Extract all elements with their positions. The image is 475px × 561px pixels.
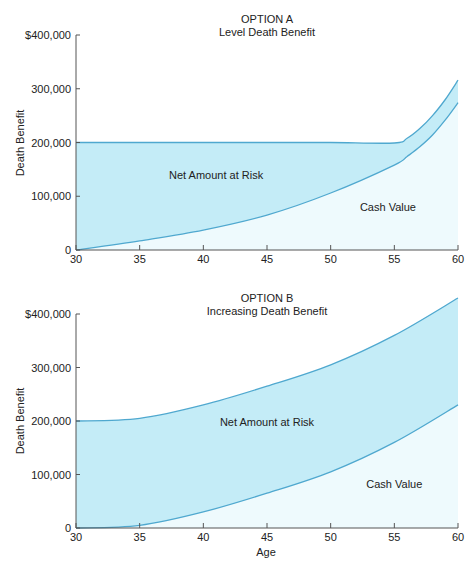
chart-subtitle: Increasing Death Benefit xyxy=(207,305,327,317)
x-tick-label: 55 xyxy=(388,531,400,543)
y-tick-label: 200,000 xyxy=(31,137,71,149)
cash-value-label: Cash Value xyxy=(360,201,416,213)
y-tick-label: 100,000 xyxy=(31,469,71,481)
y-tick-label: 300,000 xyxy=(31,362,71,374)
x-tick-label: 45 xyxy=(261,253,273,265)
x-tick-label: 45 xyxy=(261,531,273,543)
chart-canvas: 0100,000200,000300,000$400,0003035404550… xyxy=(0,0,475,561)
x-axis-label: Age xyxy=(256,546,276,558)
chart-option-a: 0100,000200,000300,000$400,0003035404550… xyxy=(14,13,464,265)
y-axis-label: Death Benefit xyxy=(14,110,26,177)
net-amount-at-risk-label: Net Amount at Risk xyxy=(169,169,264,181)
x-tick-label: 35 xyxy=(134,531,146,543)
x-tick-label: 60 xyxy=(452,253,464,265)
y-tick-label: 200,000 xyxy=(31,415,71,427)
x-tick-label: 40 xyxy=(197,531,209,543)
chart-option-b: 0100,000200,000300,000$400,0003035404550… xyxy=(14,292,464,558)
chart-title: OPTION A xyxy=(241,13,294,25)
y-axis-label: Death Benefit xyxy=(14,388,26,455)
x-tick-label: 60 xyxy=(452,531,464,543)
x-tick-label: 30 xyxy=(70,531,82,543)
x-tick-label: 50 xyxy=(325,253,337,265)
x-tick-label: 50 xyxy=(325,531,337,543)
y-tick-label: $400,000 xyxy=(25,308,71,320)
chart-subtitle: Level Death Benefit xyxy=(219,26,315,38)
x-tick-label: 30 xyxy=(70,253,82,265)
net-amount-at-risk-label: Net Amount at Risk xyxy=(220,416,315,428)
x-tick-label: 40 xyxy=(197,253,209,265)
y-tick-label: $400,000 xyxy=(25,29,71,41)
y-tick-label: 300,000 xyxy=(31,83,71,95)
x-tick-label: 55 xyxy=(388,253,400,265)
chart-title: OPTION B xyxy=(241,292,294,304)
y-tick-label: 100,000 xyxy=(31,190,71,202)
x-tick-label: 35 xyxy=(134,253,146,265)
death-benefit-line xyxy=(76,80,458,143)
cash-value-label: Cash Value xyxy=(366,478,422,490)
